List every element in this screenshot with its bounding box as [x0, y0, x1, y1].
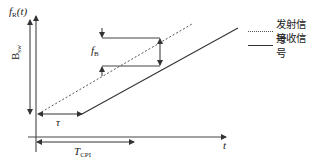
y-axis-label: fR(t): [9, 6, 27, 19]
legend-solid-swatch: [248, 45, 273, 46]
delay-label: τ: [56, 117, 60, 128]
legend-item-receive: 接收信号: [248, 30, 315, 60]
x-axis-label: t: [223, 140, 226, 151]
bandwidth-label: Bsw: [10, 45, 23, 60]
cpi-label: TCPI: [74, 146, 91, 159]
beat-frequency-label: fB: [91, 45, 99, 58]
legend-receive-label: 接收信号: [276, 30, 315, 60]
